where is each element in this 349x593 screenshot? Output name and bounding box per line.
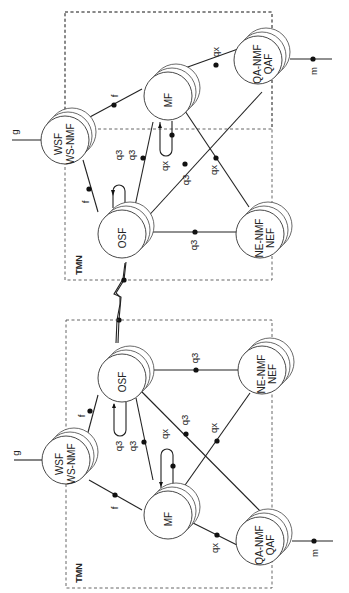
label-wsf: WSF — [53, 133, 64, 155]
ref-point-q3-osf-ne-b — [193, 367, 198, 372]
ref-label-q3-osf-qa: q3 — [180, 175, 191, 186]
ref-label-q3-osf-qa-b: q3 — [179, 415, 190, 426]
ref-label-q3-osf-mf: q3 — [126, 150, 137, 161]
ref-label-f-mf-ws: f — [109, 94, 120, 97]
label-qaf: QAF — [263, 54, 274, 75]
ref-label-m-b: m — [309, 549, 320, 557]
ref-point-qx-mf-qa — [213, 62, 218, 67]
ref-point-m-b — [311, 538, 316, 543]
ref-point-q3-osf-mf-b — [141, 439, 146, 444]
ref-point-q3-osf-ne — [192, 229, 197, 234]
ref-label-m: m — [308, 67, 319, 75]
ref-label-f-mf-ws-b: f — [109, 506, 120, 509]
label-ne-nmf: NE-NMF — [254, 219, 265, 258]
ref-point-m — [310, 56, 315, 61]
loop-mf — [160, 121, 172, 156]
link-osf-mf — [135, 122, 153, 206]
node-ne-top: NE-NMF NEF — [236, 202, 292, 258]
node-mf-top: MF — [144, 64, 200, 120]
ref-point-x-top — [121, 277, 126, 282]
ref-point-q3-osf-qa — [182, 161, 187, 166]
arrow-osf-loop-b — [112, 403, 116, 408]
label-nef-b: NEF — [267, 364, 278, 384]
ref-label-qx-mf-qa: qx — [210, 47, 221, 57]
ref-point-f-mf-ws-b — [112, 492, 117, 497]
label-osf: OSF — [117, 228, 128, 249]
arrow-mf-loop — [158, 123, 162, 128]
tmn-label-top: TMN — [74, 255, 84, 275]
ref-point-f-osf-ws-b — [87, 408, 92, 413]
label-mf: MF — [163, 93, 174, 107]
node-ws-top: WSF WS-NMF — [41, 108, 96, 165]
ref-label-qx-mf-ne: qx — [208, 165, 219, 175]
tmn-network-top: MF QA-NMF QAF WSF WS-NMF OSF — [9, 12, 332, 280]
ref-point-qx-mf-ne — [213, 155, 218, 160]
label-qa-nmf-b: QA-NMF — [254, 525, 265, 564]
ref-label-q3-osf-mf-b: q3 — [127, 441, 138, 452]
node-ws-bottom: WSF WS-NMF — [42, 428, 98, 485]
ref-label-qx-mf-loop-b: qx — [159, 429, 170, 439]
node-ne-bottom: NE-NMF NEF — [238, 338, 294, 394]
label-nef: NEF — [265, 228, 276, 248]
ref-point-f-mf-ws — [111, 102, 116, 107]
ref-point-qx-mf-loop-b — [170, 463, 175, 468]
label-ws-nmf: WS-NMF — [65, 123, 76, 164]
ref-point-f-osf-ws — [86, 186, 91, 191]
label-ne-nmf-b: NE-NMF — [256, 355, 267, 394]
node-osf-top: OSF — [98, 202, 154, 258]
ref-label-q3-osf-loop-b: q3 — [113, 441, 124, 452]
label-mf-b: MF — [163, 512, 174, 526]
tmn-functional-architecture-diagram: MF QA-NMF QAF WSF WS-NMF OSF — [0, 0, 349, 593]
ref-label-qx-mf-loop: qx — [159, 161, 170, 171]
ref-point-q3-osf-qa-b — [183, 431, 188, 436]
ref-label-g: g — [9, 129, 20, 134]
inter-tmn-link — [114, 262, 127, 343]
loop-osf-b — [114, 402, 126, 436]
label-qa-nmf: QA-NMF — [252, 44, 263, 83]
ref-label-qx-mf-ne-b: qx — [208, 423, 219, 433]
ref-label-q3-osf-ne: q3 — [188, 240, 199, 251]
ref-point-qx-mf-ne-b — [214, 438, 219, 443]
link-osf-mf-b — [136, 398, 153, 480]
tmn-label-bottom: TMN — [74, 563, 84, 583]
label-qaf-b: QAF — [265, 535, 276, 556]
ref-point-qx-mf-loop — [169, 132, 174, 137]
ref-label-f-osf-ws-b: f — [76, 414, 87, 417]
ref-point-qx-mf-qa-b — [214, 532, 219, 537]
ref-label-g-b: g — [10, 450, 21, 455]
label-wsf-b: WSF — [54, 453, 65, 475]
ref-label-f-osf-ws: f — [80, 200, 91, 203]
node-mf-bottom: MF — [144, 483, 200, 539]
label-osf-b: OSF — [117, 372, 128, 393]
node-qa-bottom: QA-NMF QAF — [236, 509, 292, 565]
ref-point-q3-osf-mf — [140, 155, 145, 160]
arrow-mf-loop-b — [159, 482, 163, 487]
ref-label-q3-osf-loop: q3 — [113, 150, 124, 161]
tmn-network-bottom: OSF NE-NMF NEF WSF WS-NMF MF — [10, 320, 333, 588]
ref-label-qx-mf-qa-b: qx — [209, 543, 220, 553]
ref-label-q3-osf-ne-b: q3 — [189, 353, 200, 364]
node-osf-bottom: OSF — [98, 346, 154, 402]
arrow-osf-loop — [111, 190, 115, 196]
node-qa-top: QA-NMF QAF — [234, 28, 290, 84]
label-ws-nmf-b: WS-NMF — [66, 443, 77, 484]
